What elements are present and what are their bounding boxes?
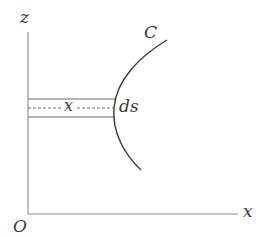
curve-label: C — [144, 24, 157, 41]
strip-width-label: x — [64, 98, 73, 114]
z-axis-label: z — [20, 9, 29, 26]
diagram-svg — [0, 0, 265, 237]
arc-element-label: ds — [119, 98, 139, 115]
x-axis-label: x — [243, 203, 253, 220]
diagram-canvas: z x O C x ds — [0, 0, 265, 237]
origin-label: O — [13, 218, 27, 235]
